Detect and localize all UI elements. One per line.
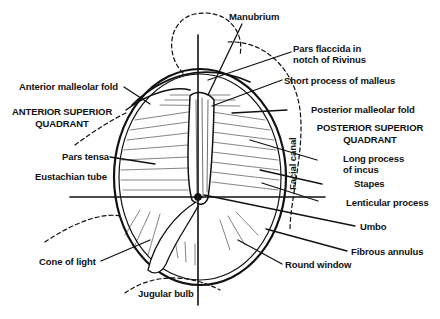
eustachian-dashed-outline (45, 215, 120, 242)
label-manubrium: Manubrium (229, 11, 279, 22)
label-jugular-bulb: Jugular bulb (138, 288, 194, 299)
label-pars-flaccida-line2: notch of Rivinus (293, 54, 366, 65)
posterior-superior-quadrant-line2: QUADRANT (315, 134, 425, 146)
label-short-process-malleus: Short process of malleus (284, 75, 395, 86)
cone-of-light-shape (148, 202, 198, 273)
umbo-point (195, 194, 202, 201)
label-long-process-line1: Long process (343, 153, 404, 164)
label-lenticular-process: Lenticular process (346, 197, 429, 208)
label-anterior-malleolar-fold: Anterior malleolar fold (19, 81, 118, 92)
label-long-process-line2: of incus (343, 164, 379, 175)
label-eustachian-tube: Eustachian tube (35, 171, 107, 182)
label-posterior-malleolar-fold: Posterior malleolar fold (311, 104, 415, 115)
label-pars-flaccida-line1: Pars flaccida in (293, 43, 361, 54)
label-umbo: Umbo (360, 221, 387, 232)
manubrium-shape (188, 93, 214, 205)
label-fibrous-annulus: Fibrous annulus (351, 246, 423, 257)
label-pars-tensa: Pars tensa (62, 151, 109, 162)
anterior-superior-quadrant-line1: ANTERIOR SUPERIOR (12, 106, 112, 118)
posterior-superior-quadrant-line1: POSTERIOR SUPERIOR (315, 122, 425, 134)
label-facial-canal: Facial canal (287, 137, 298, 190)
label-anterior-superior-quadrant: ANTERIOR SUPERIOR QUADRANT (12, 106, 112, 130)
anterior-superior-quadrant-line2: QUADRANT (12, 118, 112, 130)
label-stapes: Stapes (354, 178, 385, 189)
label-posterior-superior-quadrant: POSTERIOR SUPERIOR QUADRANT (315, 122, 425, 146)
label-round-window: Round window (285, 259, 351, 270)
label-cone-of-light: Cone of light (39, 256, 96, 267)
superior-dashed-outline (172, 13, 241, 73)
